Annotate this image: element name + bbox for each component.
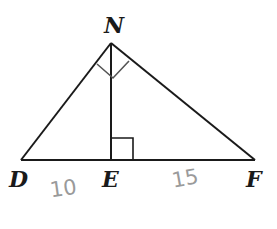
vertex-label-N: N [103,12,125,38]
handwritten-length-EF: 15 [170,164,200,192]
vertex-label-F: F [245,166,263,192]
triangle-diagram: N D E F 10 15 [0,0,277,229]
vertex-label-D: D [8,166,28,192]
segment-DN [21,43,111,160]
right-angle-mark-E [111,138,133,160]
handwritten-length-DE: 10 [48,175,78,202]
right-angle-mark-N [97,61,129,78]
vertex-label-E: E [101,166,120,192]
